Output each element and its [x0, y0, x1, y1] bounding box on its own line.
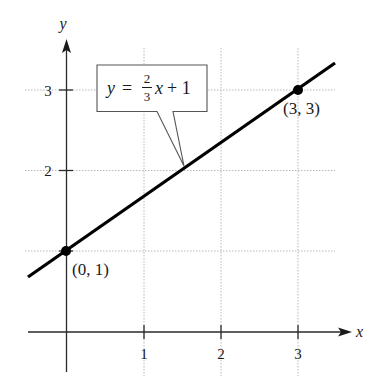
y-tick-label-3: 3	[44, 83, 52, 99]
line-chart: 1 2 3 2 3 x y (0, 1) (3, 3) y = 2 3 x + …	[0, 0, 386, 385]
x-tick-label-2: 2	[217, 346, 225, 362]
point-label-0-1: (0, 1)	[72, 260, 109, 279]
equation-callout: y = 2 3 x + 1	[97, 65, 207, 166]
point-label-3-3: (3, 3)	[283, 99, 320, 118]
equation-numerator: 2	[144, 71, 151, 86]
equation-rest: + 1	[167, 78, 191, 98]
x-tick-label-1: 1	[140, 346, 148, 362]
equation-lhs: y	[105, 78, 115, 98]
point-3-3	[293, 85, 303, 95]
x-axis-label: x	[355, 323, 363, 340]
equation-variable: x	[154, 78, 163, 98]
ticks	[59, 90, 298, 339]
y-tick-label-2: 2	[44, 163, 52, 179]
equation-sign: =	[122, 78, 132, 98]
equation-denominator: 3	[144, 89, 151, 104]
point-0-1	[61, 246, 71, 256]
x-tick-label-3: 3	[294, 346, 302, 362]
y-axis-label: y	[57, 15, 67, 33]
